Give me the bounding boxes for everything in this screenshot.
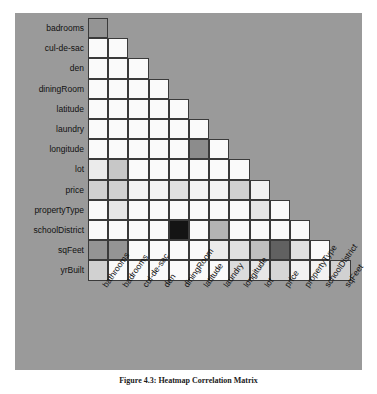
heatmap-cell — [108, 139, 128, 159]
heatmap-cell — [229, 180, 249, 200]
row-label-price: price — [15, 180, 84, 200]
heatmap-cell — [189, 139, 209, 159]
row-label-lot: lot — [15, 159, 84, 179]
heatmap-cell — [108, 99, 128, 119]
heatmap-cell — [290, 220, 310, 240]
heatmap-cell — [128, 159, 148, 179]
heatmap-cell — [88, 159, 108, 179]
heatmap-cell — [189, 200, 209, 220]
heatmap-cell — [169, 139, 189, 159]
heatmap-cell — [169, 200, 189, 220]
heatmap-cell — [209, 159, 229, 179]
heatmap-cell — [108, 200, 128, 220]
heatmap-cell — [290, 240, 310, 260]
heatmap-cell — [189, 159, 209, 179]
heatmap-cell — [209, 220, 229, 240]
heatmap-cell — [229, 159, 249, 179]
heatmap-cell — [88, 180, 108, 200]
heatmap-cell — [189, 220, 209, 240]
heatmap-cell — [270, 200, 290, 220]
heatmap-cell — [88, 18, 108, 38]
heatmap-cell — [88, 58, 108, 78]
heatmap-grid: badroomscul-de-sacdendiningRoomlatitudel… — [15, 13, 362, 370]
heatmap-cell — [88, 38, 108, 58]
heatmap-cell — [189, 180, 209, 200]
row-label-latitude: latitude — [15, 99, 84, 119]
heatmap-figure-panel: badroomscul-de-sacdendiningRoomlatitudel… — [15, 13, 362, 370]
heatmap-cell — [128, 58, 148, 78]
row-label-yrbuilt: yrBuilt — [15, 260, 84, 280]
heatmap-cell — [169, 159, 189, 179]
heatmap-cell — [108, 220, 128, 240]
heatmap-cell — [169, 99, 189, 119]
heatmap-cell — [229, 200, 249, 220]
heatmap-cell — [169, 240, 189, 260]
heatmap-cell — [149, 159, 169, 179]
heatmap-cell — [169, 119, 189, 139]
heatmap-cell — [128, 139, 148, 159]
heatmap-cell — [149, 99, 169, 119]
heatmap-cell — [108, 79, 128, 99]
heatmap-cell — [149, 220, 169, 240]
heatmap-cell — [108, 58, 128, 78]
heatmap-cell — [149, 119, 169, 139]
row-label-badrooms: badrooms — [15, 18, 84, 38]
heatmap-cell — [209, 139, 229, 159]
heatmap-cell — [128, 119, 148, 139]
heatmap-cell — [149, 200, 169, 220]
heatmap-cell — [108, 119, 128, 139]
row-label-den: den — [15, 58, 84, 78]
heatmap-cell — [128, 220, 148, 240]
row-label-propertytype: propertyType — [15, 200, 84, 220]
heatmap-cell — [108, 159, 128, 179]
heatmap-cell — [169, 180, 189, 200]
heatmap-cell — [128, 79, 148, 99]
heatmap-cell — [88, 139, 108, 159]
heatmap-cell — [270, 240, 290, 260]
heatmap-cell — [108, 180, 128, 200]
heatmap-cell — [149, 180, 169, 200]
heatmap-cell — [88, 79, 108, 99]
heatmap-cell — [209, 200, 229, 220]
heatmap-cell — [88, 99, 108, 119]
heatmap-cell — [270, 220, 290, 240]
heatmap-cell — [229, 240, 249, 260]
row-label-sqfeet: sqFeet — [15, 240, 84, 260]
heatmap-cell — [169, 220, 189, 240]
row-label-cul-de-sac: cul-de-sac — [15, 38, 84, 58]
row-label-diningroom: diningRoom — [15, 79, 84, 99]
row-label-laundry: laundry — [15, 119, 84, 139]
heatmap-cell — [128, 200, 148, 220]
heatmap-cell — [88, 240, 108, 260]
heatmap-cell — [250, 200, 270, 220]
heatmap-cell — [149, 79, 169, 99]
figure-caption: Figure 4.3: Heatmap Correlation Matrix — [0, 376, 377, 385]
heatmap-cell — [88, 200, 108, 220]
heatmap-cell — [88, 119, 108, 139]
heatmap-cell — [108, 38, 128, 58]
heatmap-cell — [128, 99, 148, 119]
heatmap-cell — [149, 139, 169, 159]
heatmap-cell — [229, 220, 249, 240]
heatmap-cell — [209, 180, 229, 200]
heatmap-cell — [250, 220, 270, 240]
heatmap-cell — [189, 119, 209, 139]
heatmap-cell — [250, 180, 270, 200]
heatmap-cell — [128, 180, 148, 200]
heatmap-cell — [88, 220, 108, 240]
row-label-schooldistrict: schoolDistrict — [15, 220, 84, 240]
row-label-longitude: longitude — [15, 139, 84, 159]
